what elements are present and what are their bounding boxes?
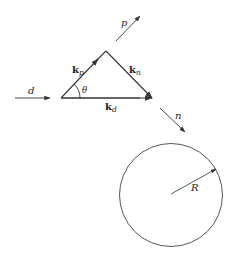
label-d: d bbox=[28, 85, 34, 96]
label-p: p bbox=[121, 17, 128, 28]
nucleus-circle bbox=[120, 144, 223, 247]
angle-arc bbox=[74, 84, 80, 98]
label-kd: kd bbox=[105, 101, 117, 114]
target-nucleus: R bbox=[120, 144, 223, 247]
deuteron-stripping-diagram: d p n kp kn kd θ R bbox=[0, 0, 235, 268]
label-kp: kp bbox=[72, 64, 84, 77]
outgoing-proton-arrow: p bbox=[116, 16, 140, 41]
outgoing-neutron-arrow: n bbox=[160, 108, 185, 132]
label-theta: θ bbox=[82, 85, 87, 95]
label-kn: kn bbox=[129, 64, 141, 77]
label-R: R bbox=[190, 182, 199, 193]
incoming-deuteron-arrow: d bbox=[15, 85, 50, 98]
label-n: n bbox=[175, 110, 181, 121]
momentum-triangle: kp kn kd θ bbox=[61, 51, 152, 114]
